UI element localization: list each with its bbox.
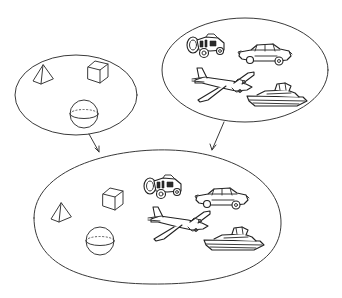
boat-icon (247, 83, 307, 106)
cube-icon (88, 61, 108, 83)
set-a-ellipse (15, 55, 137, 135)
sphere-icon (70, 100, 98, 128)
set-union-diagram: geometric solids vehicles union of both … (0, 0, 342, 298)
union-pyramid-icon (51, 203, 71, 222)
union-airplane-icon (148, 207, 210, 241)
airplane-icon (192, 68, 254, 102)
union-boat-icon (204, 227, 264, 250)
arrow-set-a-to-union (89, 134, 99, 152)
car-icon (238, 44, 292, 65)
arrow-set-b-to-union (210, 122, 224, 150)
set-b-ellipse (162, 18, 328, 122)
union-car-icon (195, 188, 249, 209)
union-cube-icon (103, 188, 123, 210)
union-sphere-icon (86, 227, 114, 255)
tractor-icon (187, 34, 224, 58)
union-tractor-icon (144, 175, 181, 199)
pyramid-icon (33, 65, 53, 84)
